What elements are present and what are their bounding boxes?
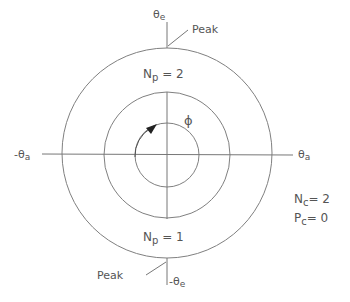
peak-bottom-leader (146, 262, 166, 275)
axis-label-top: θe (153, 8, 166, 22)
polar-diagram: θe Peak -θa θa Np = 2 Np = 1 ϕ Nc= 2 Pc=… (0, 0, 350, 302)
axis-label-right: θa (298, 148, 310, 162)
rotation-arrow-arc (135, 128, 151, 157)
region-label-top: Np = 2 (143, 67, 184, 83)
axis-label-bottom: -θe (169, 275, 186, 289)
peak-top-leader (168, 30, 188, 46)
peak-bottom-label: Peak (97, 269, 124, 282)
param-nc: Nc= 2 (294, 192, 330, 208)
rotation-arrowhead-icon (146, 124, 157, 134)
region-label-bottom: Np = 1 (143, 230, 184, 246)
phi-label: ϕ (184, 113, 193, 128)
axis-label-left: -θa (14, 148, 30, 162)
param-pc: Pc= 0 (294, 211, 328, 227)
peak-top-label: Peak (192, 23, 219, 36)
